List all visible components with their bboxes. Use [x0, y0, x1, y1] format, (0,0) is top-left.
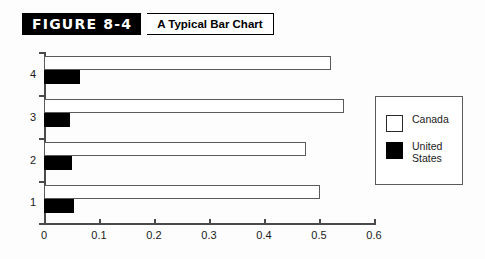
legend-label-canada: Canada: [412, 114, 449, 126]
bar-canada-1: [44, 185, 320, 199]
y-axis-tick: [39, 138, 45, 140]
bar-canada-3: [44, 99, 344, 113]
y-axis-label-1: 1: [20, 196, 36, 208]
y-axis-tick: [39, 181, 45, 183]
x-axis-label-0-1: 0.1: [79, 229, 119, 241]
bar-canada-4: [44, 56, 331, 70]
x-axis-tick: [319, 219, 321, 225]
x-axis-label-0-4: 0.4: [244, 229, 284, 241]
x-axis-label-0-6: 0.6: [354, 229, 394, 241]
x-axis-label-0-3: 0.3: [189, 229, 229, 241]
x-axis-tick: [44, 219, 46, 225]
legend-item-canada: Canada: [386, 114, 449, 132]
y-axis-label-4: 4: [20, 68, 36, 80]
bar-chart: 4 3 2 1 0 0.1 0.2 0.3 0.4 0.5 0.6 Canada…: [0, 0, 485, 259]
white-square-swatch-icon: [386, 115, 403, 132]
y-axis-label-2: 2: [20, 154, 36, 166]
x-axis-label-0-2: 0.2: [134, 229, 174, 241]
chart-legend: Canada United States: [375, 96, 463, 185]
y-axis-tick: [39, 95, 45, 97]
black-square-swatch-icon: [386, 142, 403, 159]
x-axis-tick: [99, 219, 101, 225]
bar-canada-2: [44, 142, 306, 156]
bar-united-states-3: [44, 113, 70, 127]
x-axis-label-0-5: 0.5: [299, 229, 339, 241]
y-axis-label-3: 3: [20, 111, 36, 123]
x-axis-label-0: 0: [24, 229, 64, 241]
x-axis-tick: [264, 219, 266, 225]
x-axis-tick: [209, 219, 211, 225]
x-axis-tick: [154, 219, 156, 225]
bar-united-states-4: [44, 70, 80, 84]
legend-item-united-states: United States: [386, 141, 442, 164]
bar-united-states-2: [44, 156, 72, 170]
y-axis-tick: [39, 52, 45, 54]
x-axis-tick: [374, 219, 376, 225]
legend-label-united-states: United States: [412, 141, 442, 164]
bar-united-states-1: [44, 199, 74, 213]
